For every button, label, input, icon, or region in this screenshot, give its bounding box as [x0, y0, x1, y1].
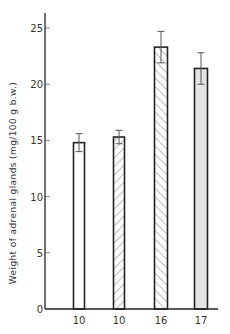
- bar-rect: [155, 47, 168, 309]
- bars: [74, 31, 208, 309]
- bar-4: [195, 53, 208, 309]
- bar-chart: Weight of adrenal glands (mg/100 g b.w.)…: [0, 0, 230, 334]
- bar-1: [74, 134, 85, 309]
- y-tick-label: 15: [30, 135, 43, 146]
- x-tick-label: 17: [195, 315, 208, 326]
- x-tick-label: 16: [155, 315, 168, 326]
- y-axis-label-group: Weight of adrenal glands (mg/100 g b.w.): [8, 82, 18, 284]
- y-tick-label: 25: [30, 23, 43, 34]
- bar-rect: [114, 137, 125, 309]
- x-axis-labels: 10101617: [73, 315, 208, 326]
- x-tick-label: 10: [113, 315, 126, 326]
- y-tick-label: 5: [37, 248, 43, 259]
- y-tick-label: 10: [30, 192, 43, 203]
- bar-rect: [195, 68, 208, 309]
- bar-2: [114, 130, 125, 309]
- y-tick-label: 20: [30, 79, 43, 90]
- x-tick-label: 10: [73, 315, 86, 326]
- y-axis-label: Weight of adrenal glands (mg/100 g b.w.): [8, 82, 18, 284]
- bar-3: [155, 31, 168, 309]
- y-tick-label: 0: [37, 304, 43, 315]
- y-axis-ticks: 0510152025: [30, 23, 50, 315]
- bar-rect: [74, 143, 85, 309]
